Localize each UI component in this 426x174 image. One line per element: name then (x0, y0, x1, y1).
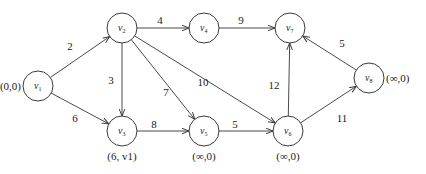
edge-weight-v2-v6: 10 (198, 76, 210, 88)
node-mark-v5: (∞,0) (192, 150, 216, 163)
edge-weight-v1-v3: 6 (72, 112, 78, 124)
node-v2: v2 (107, 13, 137, 43)
edge-weight-v2-v5: 7 (163, 86, 169, 98)
edge-v2-v5 (131, 40, 194, 120)
edge-v6-v7 (288, 43, 289, 116)
edge-weight-v2-v3: 3 (108, 74, 114, 86)
edge-weight-v2-v4: 4 (157, 14, 163, 26)
node-v6: v6 (273, 116, 303, 146)
node-v7: v7 (275, 13, 305, 43)
graph-svg: 264371098512115 v1v2v3v4v5v6v7v8 (0,0)(6… (0, 0, 426, 174)
edge-v1-v2 (50, 37, 109, 78)
node-v8: v8 (354, 63, 384, 93)
edge-v1-v3 (51, 93, 109, 124)
node-mark-v6: (∞,0) (276, 150, 300, 163)
edge-weight-v1-v2: 2 (67, 40, 73, 52)
edge-weight-v6-v7: 12 (269, 79, 280, 91)
node-mark-v8: (∞,0) (386, 72, 410, 85)
node-mark-v1: (0,0) (0, 80, 21, 93)
edge-weight-v3-v5: 8 (151, 118, 157, 130)
edge-weight-v5-v6: 5 (232, 118, 238, 130)
node-v4: v4 (189, 13, 219, 43)
edge-v8-v7 (303, 36, 357, 70)
node-mark-v3: (6, v1) (107, 150, 137, 163)
edge-weight-v6-v8: 11 (337, 112, 348, 124)
node-v1: v1 (23, 71, 53, 101)
edge-weight-v4-v7: 9 (238, 14, 244, 26)
graph-diagram: 264371098512115 v1v2v3v4v5v6v7v8 (0,0)(6… (0, 0, 426, 174)
edge-v6-v8 (301, 86, 357, 123)
edge-weight-v8-v7: 5 (339, 37, 345, 49)
node-v5: v5 (189, 116, 219, 146)
node-v3: v3 (107, 116, 137, 146)
